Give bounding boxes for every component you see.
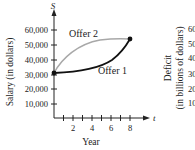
start-point <box>52 71 57 76</box>
x-tick-label: 8 <box>128 123 132 133</box>
x-tick-label: 6 <box>109 123 113 133</box>
deficit-tick-label: 20 <box>188 84 195 94</box>
x-axis-var: t <box>153 113 156 123</box>
y-tick-label: 50,000 <box>25 40 48 50</box>
offer-2-label: Offer 2 <box>69 28 98 39</box>
y-tick-label: 20,000 <box>25 84 48 94</box>
end-point <box>128 37 133 42</box>
deficit-tick-label: 40 <box>188 53 195 63</box>
deficit-axis-title-line2: (in billions of dollars) <box>175 26 186 109</box>
y-tick-label: 40,000 <box>25 55 48 65</box>
x-tick-label: 2 <box>71 123 75 133</box>
y-axis-var: S <box>51 1 56 11</box>
deficit-chart-partial: Deficit (in billions of dollars) 60 50 4… <box>163 24 195 110</box>
deficit-tick-label: 10 <box>188 98 195 108</box>
deficit-tick-labels: 60 50 40 30 20 10 <box>188 24 195 108</box>
salary-chart: S t 60,000 50,000 40,000 30,000 20,000 1… <box>0 0 195 150</box>
y-tick-label: 10,000 <box>25 99 48 109</box>
x-tick-label: 4 <box>90 123 95 133</box>
x-axis-title: Year <box>82 137 100 147</box>
deficit-tick-label: 50 <box>188 39 195 49</box>
y-tick-label: 60,000 <box>25 25 48 35</box>
x-axis-arrow-icon <box>143 116 150 121</box>
deficit-axis-title-line1: Deficit <box>163 54 173 81</box>
y-tick-labels: 60,000 50,000 40,000 30,000 20,000 10,00… <box>25 25 48 109</box>
y-axis-title: Salary (in dollars) <box>5 38 16 107</box>
y-tick-label: 30,000 <box>25 70 48 80</box>
deficit-tick-label: 30 <box>188 69 195 79</box>
offer-1-label: Offer 1 <box>98 65 127 76</box>
deficit-tick-label: 60 <box>188 24 195 34</box>
x-tick-labels: 2 4 6 8 <box>71 123 132 133</box>
